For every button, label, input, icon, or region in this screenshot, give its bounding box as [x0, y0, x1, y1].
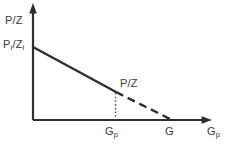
y-intercept-label: Pi/Zi: [3, 39, 24, 50]
x-axis: [33, 116, 212, 124]
pz-vs-gp-chart: P/Z Pi/Zi P/Z Gp G Gp: [0, 0, 232, 152]
x-tick-label-gp: Gp: [105, 126, 118, 137]
y-axis: [29, 3, 37, 120]
x-axis-label: Gp: [207, 126, 220, 137]
x-axis-arrowhead: [202, 116, 213, 124]
pz-dashed-extrapolation: [116, 92, 172, 120]
pz-solid-line: [33, 47, 116, 92]
curve-label: P/Z: [120, 78, 138, 89]
x-tick-label-g: G: [165, 126, 174, 137]
x-axis-label-subscript: p: [216, 130, 220, 139]
y-axis-label: P/Z: [5, 15, 23, 26]
x-tick-gp-subscript: p: [114, 130, 118, 139]
y-axis-arrowhead: [29, 3, 37, 14]
